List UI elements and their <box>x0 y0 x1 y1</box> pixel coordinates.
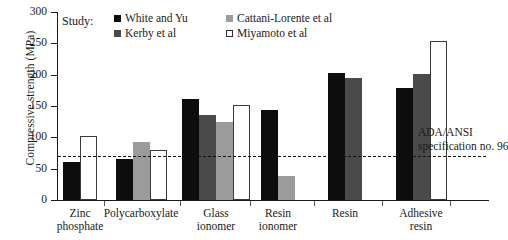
ada-ansi-threshold-line <box>58 156 486 157</box>
y-axis-tick-label: 200 <box>0 69 47 81</box>
y-axis-tick-label: 250 <box>0 37 47 49</box>
bar <box>199 115 216 200</box>
bar <box>182 99 199 200</box>
x-axis-tick <box>180 201 181 206</box>
y-axis-tick-label: 300 <box>0 6 47 18</box>
bar <box>63 162 80 200</box>
y-axis-tick-label: 100 <box>0 131 47 143</box>
legend-entry: Miyamoto et al <box>226 26 356 41</box>
legend-entry-label: White and Yu <box>125 13 188 25</box>
legend-swatch-icon <box>226 30 233 37</box>
legend-entry: Kerby et al <box>114 26 226 41</box>
bar <box>345 78 362 200</box>
bar <box>430 41 447 200</box>
category-label-line1: Adhesive <box>371 207 471 220</box>
bar <box>150 150 167 200</box>
legend-entry: White and Yu <box>114 11 226 26</box>
legend-swatch-icon <box>114 30 121 37</box>
y-axis-tick-label: 150 <box>0 100 47 112</box>
x-axis-tick <box>382 201 383 206</box>
legend-entry-label: Kerby et al <box>125 28 176 40</box>
y-axis-tick-label: 0 <box>0 194 47 206</box>
legend-title: Study: <box>62 14 93 29</box>
legend-entries: White and YuCattani-Lorente et alKerby e… <box>114 11 356 41</box>
bar <box>133 142 150 200</box>
bar <box>116 159 133 200</box>
bar <box>216 122 233 200</box>
legend-entry-label: Miyamoto et al <box>237 28 307 40</box>
bar <box>396 88 413 200</box>
x-axis-line <box>57 200 489 201</box>
legend-swatch-icon <box>114 15 121 22</box>
ada-ansi-threshold-label: ADA/ANSI specification no. 96 <box>418 126 508 153</box>
threshold-label-line2: specification no. 96 <box>418 140 508 154</box>
bar <box>278 176 295 200</box>
x-axis-tick <box>250 201 251 206</box>
category-label-line2: resin <box>371 220 471 233</box>
bar <box>328 73 345 200</box>
x-axis-tick <box>314 201 315 206</box>
threshold-label-line1: ADA/ANSI <box>418 126 508 140</box>
bar <box>80 136 97 200</box>
legend-entry-label: Cattani-Lorente et al <box>237 13 332 25</box>
y-axis-tick-label: 50 <box>0 163 47 175</box>
x-axis-tick <box>104 201 105 206</box>
legend-swatch-icon <box>226 15 233 22</box>
legend-entry: Cattani-Lorente et al <box>226 11 356 26</box>
category-label-line2: ionomer <box>228 220 328 233</box>
x-axis-category-label: Adhesiveresin <box>371 207 471 233</box>
category-label-line2: phosphate <box>30 220 130 233</box>
x-axis-tick <box>450 201 451 206</box>
bar <box>233 105 250 200</box>
